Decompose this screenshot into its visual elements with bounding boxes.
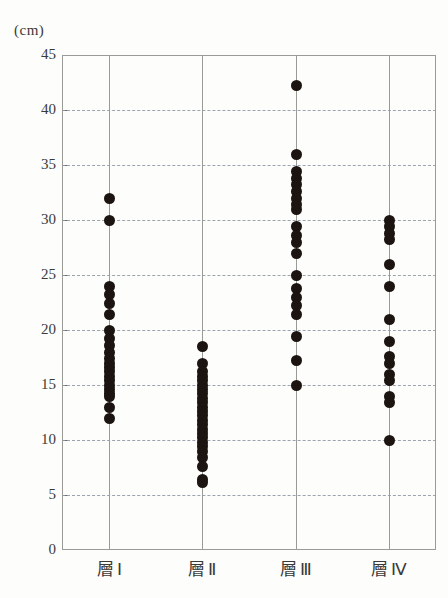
y-axis-tick-label: 25 (12, 267, 56, 282)
y-axis-tick-label: 10 (12, 432, 56, 447)
x-axis-category-label: 層Ⅱ (188, 556, 216, 583)
category-roman-numeral: Ⅰ (117, 560, 122, 579)
y-axis-unit-caption: (cm) (14, 22, 44, 39)
category-kanji: 層 (371, 559, 388, 579)
y-axis-tick-label: 40 (12, 102, 56, 117)
x-axis-category-label: 層Ⅲ (280, 556, 312, 583)
y-axis-tick-label: 35 (12, 157, 56, 172)
category-roman-numeral: Ⅳ (391, 560, 407, 579)
x-axis-category-labels: 層Ⅰ層Ⅱ層Ⅲ層Ⅳ (62, 556, 436, 590)
x-axis-category-label: 層Ⅳ (371, 556, 407, 583)
category-kanji: 層 (97, 559, 114, 579)
y-axis-tick-label: 0 (12, 542, 56, 557)
x-axis-category-label: 層Ⅰ (97, 556, 122, 583)
y-axis-tick-label: 20 (12, 322, 56, 337)
y-axis-tick-labels: 051015202530354045 (8, 55, 56, 550)
y-axis-tick-label: 5 (12, 487, 56, 502)
category-roman-numeral: Ⅲ (300, 560, 312, 579)
plot-frame-border (62, 55, 436, 550)
y-axis-tick-label: 15 (12, 377, 56, 392)
dot-plot-chart: (cm) 051015202530354045 層Ⅰ層Ⅱ層Ⅲ層Ⅳ (0, 0, 448, 598)
category-kanji: 層 (280, 559, 297, 579)
y-axis-tick-label: 45 (12, 47, 56, 62)
category-kanji: 層 (188, 559, 205, 579)
y-axis-tick-label: 30 (12, 212, 56, 227)
category-roman-numeral: Ⅱ (208, 560, 216, 579)
